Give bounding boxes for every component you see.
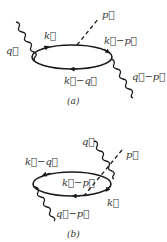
label-p-a: p⃗ [102, 9, 114, 20]
scalar-p-dashed-line [77, 18, 99, 45]
label-k-minus-p-a: k⃗−p⃗ [104, 35, 137, 46]
caption-a: (a) [67, 96, 80, 106]
diagram-b: q⃗ p⃗ k⃗−q⃗ k⃗−p⃗ k⃗ q⃗−p⃗ (b) [25, 136, 138, 239]
label-k-minus-q-b: k⃗−q⃗ [25, 156, 58, 167]
photon-q-minus-p-wavy-line [111, 59, 133, 98]
label-q-a: q⃗ [6, 45, 18, 56]
feynman-diagrams: q⃗ k⃗ p⃗ k⃗−p⃗ k⃗−q⃗ q⃗−p⃗ (a) q⃗ p⃗ k⃗−… [0, 0, 167, 242]
label-k-a: k⃗ [44, 30, 56, 41]
label-k-b: k⃗ [107, 197, 119, 208]
diagram-a: q⃗ k⃗ p⃗ k⃗−p⃗ k⃗−q⃗ q⃗−p⃗ (a) [6, 9, 165, 106]
label-k-minus-p-b: k⃗−p⃗ [62, 177, 95, 188]
label-k-minus-q-a: k⃗−q⃗ [64, 75, 97, 86]
label-p-b: p⃗ [126, 149, 138, 160]
photon-q-wavy-line [94, 141, 114, 179]
caption-b: (b) [67, 229, 80, 239]
label-q-b: q⃗ [82, 136, 94, 147]
label-q-minus-p-a: q⃗−p⃗ [132, 71, 165, 82]
label-q-minus-p-b: q⃗−p⃗ [56, 208, 89, 219]
